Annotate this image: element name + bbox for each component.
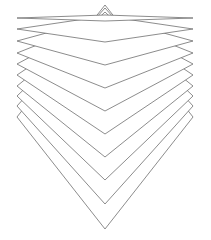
layered-chevron-diagram (0, 0, 211, 240)
diagram-canvas (0, 0, 211, 240)
rhombus-layer-1 (17, 15, 193, 21)
